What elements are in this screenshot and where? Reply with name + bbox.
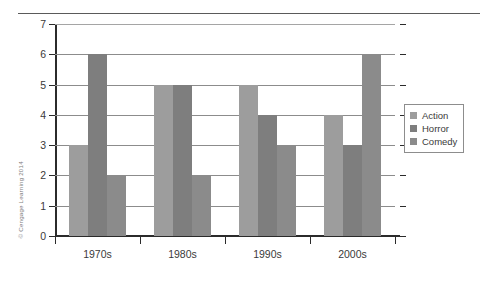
legend-item-Comedy[interactable]: Comedy (410, 135, 457, 148)
y-tick-label-6: 6 (40, 49, 46, 60)
y-tick-label-7: 7 (40, 19, 46, 30)
legend-item-Horror[interactable]: Horror (410, 122, 457, 135)
y-tick-7 (49, 24, 55, 25)
y-tick-right-1 (400, 206, 406, 207)
bar-1980s-Action (154, 85, 173, 236)
y-tick-right-6 (400, 54, 406, 55)
legend-swatch-icon-Comedy (410, 138, 417, 145)
y-tick-4 (49, 115, 55, 116)
x-tick-label-2000s: 2000s (338, 248, 367, 260)
bar-2000s-Action (324, 115, 343, 236)
top-divider-rule (18, 13, 480, 14)
y-tick-1 (49, 206, 55, 207)
y-tick-label-3: 3 (40, 140, 46, 151)
chart-figure: © Cengage Learning 2014 01234567 1970s19… (0, 0, 491, 282)
y-tick-right-2 (400, 175, 406, 176)
bar-1970s-Action (69, 145, 88, 236)
y-tick-right-7 (400, 24, 406, 25)
bar-2000s-Horror (343, 145, 362, 236)
y-tick-label-4: 4 (40, 110, 46, 121)
bar-1970s-Comedy (107, 175, 126, 236)
y-tick-right-0 (400, 236, 406, 237)
bar-2000s-Comedy (362, 54, 381, 236)
legend-swatch-icon-Action (410, 112, 417, 119)
x-tick-1970s (140, 237, 141, 244)
x-tick-1990s (310, 237, 311, 244)
y-tick-label-2: 2 (40, 170, 46, 181)
x-tick-label-1990s: 1990s (253, 248, 282, 260)
y-tick-6 (49, 54, 55, 55)
bar-1980s-Horror (173, 85, 192, 236)
bar-1990s-Action (239, 85, 258, 236)
legend-label-Action: Action (422, 111, 448, 121)
x-tick-label-1980s: 1980s (168, 248, 197, 260)
bar-1980s-Comedy (192, 175, 211, 236)
legend-swatch-icon-Horror (410, 125, 417, 132)
y-tick-right-5 (400, 85, 406, 86)
y-tick-3 (49, 145, 55, 146)
plot-area: 01234567 1970s1980s1990s2000s (55, 24, 395, 236)
chart-legend: ActionHorrorComedy (404, 104, 464, 153)
x-tick-origin (55, 237, 56, 244)
y-axis-line (55, 24, 57, 236)
gridline-7 (55, 24, 395, 25)
x-tick-2000s (395, 237, 396, 244)
y-tick-label-1: 1 (40, 200, 46, 211)
y-tick-5 (49, 85, 55, 86)
y-tick-2 (49, 175, 55, 176)
bar-1970s-Horror (88, 54, 107, 236)
y-tick-label-5: 5 (40, 79, 46, 90)
x-tick-label-1970s: 1970s (83, 248, 112, 260)
bar-1990s-Horror (258, 115, 277, 236)
bar-1990s-Comedy (277, 145, 296, 236)
y-tick-label-0: 0 (40, 231, 46, 242)
x-tick-1980s (225, 237, 226, 244)
legend-item-Action[interactable]: Action (410, 109, 457, 122)
copyright-credit: © Cengage Learning 2014 (17, 149, 24, 239)
legend-label-Comedy: Comedy (422, 137, 457, 147)
legend-label-Horror: Horror (422, 124, 449, 134)
